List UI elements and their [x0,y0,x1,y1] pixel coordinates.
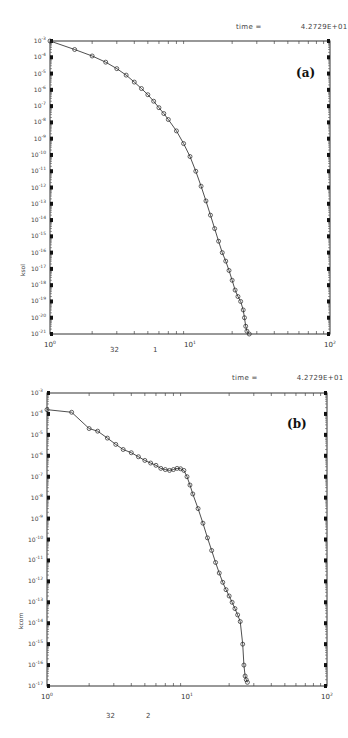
y-major-tick [47,496,50,500]
y-major-tick-right [324,663,327,667]
footer-index-b: 2 [146,712,150,720]
plot-frame [47,393,327,686]
y-major-tick [50,186,53,190]
y-major-tick [47,538,50,542]
y-major-tick [50,283,53,287]
y-tick-label: 10-5 [31,430,43,438]
y-major-tick [47,600,50,604]
y-major-tick-right [327,104,330,108]
y-major-tick [50,72,53,76]
y-major-tick [50,251,53,255]
chart-panel-a: time = 4.2729E+01 10-2110-2010-1910-1810… [0,0,348,369]
y-major-tick [50,332,53,336]
y-tick-label: 10-6 [34,85,46,93]
y-major-tick-right [324,538,327,542]
y-major-tick [50,137,53,141]
y-tick-label: 10-14 [28,618,43,626]
y-major-tick [47,621,50,625]
y-major-tick-right [327,72,330,76]
y-tick-label: 10-3 [31,388,43,396]
y-tick-label: 10-7 [34,101,46,109]
chart-panel-b: time = 4.2729E+01 10-1710-1610-1510-1410… [0,369,348,738]
y-major-tick-right [327,55,330,59]
y-major-tick-right [324,433,327,437]
y-tick-label: 10-12 [31,183,46,191]
y-major-tick [50,234,53,238]
y-major-tick [47,663,50,667]
panel-label-b: (b) [287,417,307,431]
y-tick-label: 10-12 [28,576,43,584]
y-tick-label: 10-5 [34,69,46,77]
y-tick-label: 10-9 [34,134,46,142]
y-major-tick-right [327,137,330,141]
y-major-tick [50,88,53,92]
y-tick-label: 10-13 [28,597,43,605]
y-major-tick [47,579,50,583]
y-major-tick-right [327,88,330,92]
y-major-tick [50,153,53,157]
y-major-tick-right [324,391,327,395]
y-major-tick-right [324,454,327,458]
y-major-tick-right [327,316,330,320]
y-tick-label: 10-11 [28,555,43,563]
y-tick-label: 10-14 [31,215,46,223]
y-major-tick-right [327,251,330,255]
y-major-tick [50,316,53,320]
y-major-tick-right [324,517,327,521]
y-major-tick [50,120,53,124]
y-tick-label: 10-17 [31,264,46,272]
y-tick-label: 10-7 [31,472,43,480]
footer-index-a: 1 [153,346,157,354]
y-major-tick [50,104,53,108]
y-tick-label: 10-15 [31,231,46,239]
y-major-tick [50,218,53,222]
y-axis-label-a: ksol [19,264,26,276]
y-tick-label: 10-20 [31,313,46,321]
x-tick-label: 101 [181,692,193,701]
y-tick-label: 10-19 [31,296,46,304]
y-major-tick-right [327,186,330,190]
y-tick-label: 10-8 [34,117,46,125]
y-major-tick-right [324,412,327,416]
y-tick-label: 10-16 [28,660,43,668]
y-major-tick-right [327,332,330,336]
y-major-tick-right [327,120,330,124]
y-tick-label: 10-15 [28,639,43,647]
y-tick-label: 10-18 [31,280,46,288]
y-major-tick-right [327,218,330,222]
y-major-tick [50,202,53,206]
y-major-tick [47,412,50,416]
y-major-tick [50,299,53,303]
y-major-tick-right [324,642,327,646]
y-major-tick-right [324,475,327,479]
x-tick-label: 100 [44,340,56,349]
y-tick-label: 10-21 [31,329,46,337]
y-major-tick-right [327,169,330,173]
y-tick-label: 10-8 [31,493,43,501]
plot-frame [50,41,330,334]
y-major-tick [50,55,53,59]
y-tick-label: 10-6 [31,451,43,459]
y-major-tick-right [324,600,327,604]
y-major-tick [47,433,50,437]
y-major-tick [47,454,50,458]
plot-area-a: 10-2110-2010-1910-1810-1710-1610-1510-14… [0,0,348,369]
y-major-tick-right [327,202,330,206]
y-major-tick [47,558,50,562]
y-tick-label: 10-16 [31,248,46,256]
y-major-tick [47,642,50,646]
y-tick-label: 10-13 [31,199,46,207]
y-major-tick-right [327,283,330,287]
y-tick-label: 10-10 [31,150,46,158]
y-tick-label: 10-10 [28,535,43,543]
y-major-tick [47,391,50,395]
y-major-tick [50,267,53,271]
y-tick-label: 10-4 [31,409,43,417]
x-tick-label: 100 [41,692,53,701]
y-tick-label: 10-11 [31,166,46,174]
y-major-tick-right [327,153,330,157]
panel-label-a: (a) [296,66,315,80]
y-major-tick-right [324,558,327,562]
y-major-tick [47,475,50,479]
y-tick-label: 10-4 [34,52,46,60]
